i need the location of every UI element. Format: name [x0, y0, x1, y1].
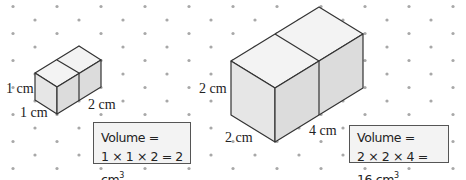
large-prism [231, 7, 363, 142]
large-height-label: 2 cm [199, 82, 227, 96]
large-width-label: 2 cm [225, 131, 253, 145]
small-height-label: 1 cm [6, 82, 34, 96]
small-volume-box: Volume = 1 × 1 × 2 = 2 cm3 [93, 122, 191, 164]
small-length-label: 2 cm [88, 98, 116, 112]
small-volume-title: Volume = [101, 128, 183, 147]
large-volume-formula: 2 × 2 × 4 = 16 cm3 [357, 147, 441, 180]
large-volume-title: Volume = [357, 128, 441, 147]
large-length-label: 4 cm [309, 124, 337, 138]
small-volume-formula: 1 × 1 × 2 = 2 cm3 [101, 147, 183, 180]
small-width-label: 1 cm [20, 106, 48, 120]
large-volume-box: Volume = 2 × 2 × 4 = 16 cm3 [349, 125, 449, 163]
